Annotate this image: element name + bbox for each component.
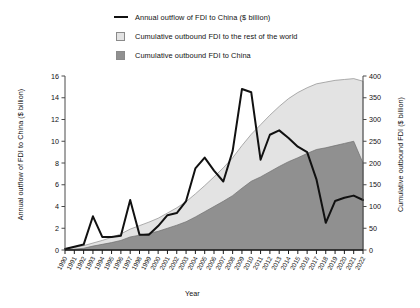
y-axis-right-tick: 150 xyxy=(369,180,381,189)
y-axis-right-tick: 250 xyxy=(369,137,381,146)
y-axis-right-tick: 100 xyxy=(369,202,381,211)
y-axis-right-tick: 0 xyxy=(369,246,373,255)
y-axis-right-tick: 300 xyxy=(369,115,381,124)
y-axis-right-tick: 50 xyxy=(369,224,377,233)
x-axis-tick-label: 2022 xyxy=(354,255,367,271)
y-axis-left-tick: 0 xyxy=(55,246,59,255)
y-axis-left-tick: 4 xyxy=(55,202,59,211)
y-axis-left-tick: 8 xyxy=(55,159,59,168)
y-axis-left-tick: 10 xyxy=(51,137,59,146)
y-axis-left-tick: 12 xyxy=(51,115,59,124)
y-axis-right-tick: 200 xyxy=(369,159,381,168)
chart-plot-area: 0246810121416050100150200250300350400199… xyxy=(0,0,420,308)
y-axis-left-tick: 2 xyxy=(55,224,59,233)
y-axis-left-tick: 16 xyxy=(51,72,59,81)
y-axis-right-tick: 400 xyxy=(369,72,381,81)
y-axis-left-tick: 14 xyxy=(51,93,59,102)
chart-figure: Annual outflow of FDI to China ($ billio… xyxy=(0,0,420,308)
y-axis-right-tick: 350 xyxy=(369,93,381,102)
y-axis-left-tick: 6 xyxy=(55,180,59,189)
